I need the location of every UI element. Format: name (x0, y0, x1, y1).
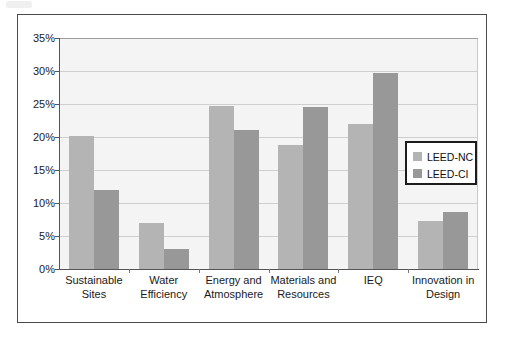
bar (69, 136, 94, 269)
x-axis-category-label-line: IEQ (338, 273, 408, 287)
legend-swatch-icon (413, 169, 422, 178)
bar (373, 73, 398, 269)
bar (139, 223, 164, 269)
legend-item: LEED-CI (413, 165, 475, 182)
y-axis-tick-mark (55, 269, 59, 270)
bar (418, 221, 443, 269)
y-axis-tick-labels: 0%5%10%15%20%25%30%35% (18, 38, 55, 269)
x-axis-category-label-line: Innovation in (408, 273, 478, 287)
chart-legend: LEED-NCLEED-CI (405, 141, 477, 185)
legend-swatch-icon (413, 152, 422, 161)
figure-frame: 0%5%10%15%20%25%30%35% SustainableSitesW… (17, 14, 487, 323)
x-axis-category-label: IEQ (338, 273, 408, 287)
x-axis-category-label: SustainableSites (59, 273, 129, 301)
y-axis-tick-label: 10% (19, 197, 55, 209)
y-axis-tick-label: 25% (19, 98, 55, 110)
x-axis-category-label: Innovation inDesign (408, 273, 478, 301)
y-axis-tick-label: 0% (19, 263, 55, 275)
bar-chart: 0%5%10%15%20%25%30%35% SustainableSitesW… (18, 15, 488, 324)
bar (209, 106, 234, 269)
x-axis-category-label: Energy andAtmosphere (199, 273, 269, 301)
y-axis-tick-label: 35% (19, 32, 55, 44)
bar (443, 212, 468, 269)
bar (234, 130, 259, 269)
x-axis-category-label-line: Atmosphere (199, 287, 269, 301)
bar (348, 124, 373, 269)
x-axis-category-label-line: Water (129, 273, 199, 287)
bar (94, 190, 119, 269)
x-axis-category-label-line: Sites (59, 287, 129, 301)
legend-item: LEED-NC (413, 148, 475, 165)
bar (303, 107, 328, 269)
x-axis-category-label-line: Materials and (269, 273, 339, 287)
x-axis-category-label-line: Efficiency (129, 287, 199, 301)
x-axis-category-label: WaterEfficiency (129, 273, 199, 301)
y-axis-tick-label: 30% (19, 65, 55, 77)
y-axis-tick-label: 15% (19, 164, 55, 176)
x-axis-category-label: Materials andResources (269, 273, 339, 301)
y-axis-tick-label: 20% (19, 131, 55, 143)
y-axis-tick-label: 5% (19, 230, 55, 242)
x-axis-category-label-line: Design (408, 287, 478, 301)
x-axis-category-label-line: Resources (269, 287, 339, 301)
bar (278, 145, 303, 269)
bar (164, 249, 189, 269)
legend-label: LEED-CI (427, 168, 468, 180)
x-axis-category-label-line: Energy and (199, 273, 269, 287)
x-axis-category-label-line: Sustainable (59, 273, 129, 287)
scan-artifact (6, 1, 32, 8)
legend-label: LEED-NC (427, 151, 473, 163)
x-axis-category-labels: SustainableSitesWaterEfficiencyEnergy an… (59, 273, 478, 317)
